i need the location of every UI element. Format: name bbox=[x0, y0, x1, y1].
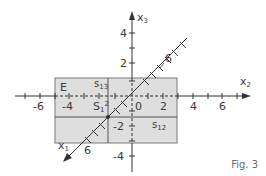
x2-tick-label-2: 2 bbox=[160, 101, 167, 112]
plane-e-label: E bbox=[60, 82, 67, 93]
x2-tick-label-6: 6 bbox=[219, 101, 226, 112]
trace-s13-label: s13 bbox=[94, 79, 108, 89]
point-s1 bbox=[106, 115, 110, 119]
x2-tick-label-neg6: -6 bbox=[33, 101, 44, 112]
x1-tick-label-6: 6 bbox=[84, 145, 91, 156]
figure-caption: Fig. 3 bbox=[231, 159, 258, 170]
x3-axis-label: x3 bbox=[137, 12, 148, 23]
x2-tick-label-4: 4 bbox=[190, 101, 197, 112]
x2-tick-label-neg4: -4 bbox=[62, 101, 73, 112]
x3-tick-label-4: 4 bbox=[120, 28, 127, 39]
x2-arrow-icon bbox=[242, 93, 251, 99]
x1-axis-label: x1 bbox=[58, 140, 69, 151]
x3-arrow-icon bbox=[129, 11, 135, 20]
origin-label: 0 bbox=[135, 101, 142, 112]
x3-tick-label-2: 2 bbox=[120, 58, 127, 69]
x1-upper-tick-label-6: 6 bbox=[165, 53, 172, 64]
point-s1-label: S12 bbox=[93, 101, 109, 112]
x3-tick-label-neg2: -2 bbox=[113, 121, 124, 132]
x3-tick-label-neg4: -4 bbox=[113, 151, 124, 162]
x2-axis-label: x2 bbox=[240, 76, 251, 87]
coordinate-diagram bbox=[0, 0, 266, 176]
trace-s12-label: s12 bbox=[152, 120, 166, 130]
